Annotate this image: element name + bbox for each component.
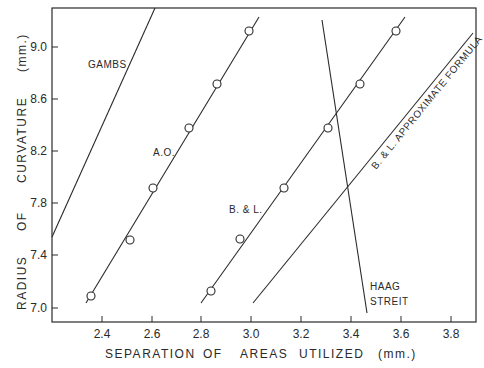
gambs-line xyxy=(52,8,155,237)
x-axis-title-word: UTILIZED xyxy=(299,347,364,361)
x-axis-title: SEPARATION OF AREAS UTILIZED (mm.) xyxy=(105,347,417,361)
data-point xyxy=(149,184,157,192)
x-tick-label: 2.6 xyxy=(144,327,161,341)
data-point xyxy=(356,80,364,88)
x-axis xyxy=(102,316,451,322)
y-axis-title-word: (mm.) xyxy=(15,33,29,72)
chart: 7.0 7.4 7.8 8.2 8.6 9.0 2.4 2.6 2.8 3.0 … xyxy=(0,0,484,368)
x-tick-label: 3.6 xyxy=(393,327,410,341)
data-point xyxy=(213,80,221,88)
data-point xyxy=(236,235,244,243)
plot-frame xyxy=(52,8,476,322)
gambs-label: GAMBS xyxy=(88,59,127,70)
x-axis-title-word: OF xyxy=(203,347,223,361)
haag-streit-line xyxy=(322,20,367,313)
streit-label: STREIT xyxy=(370,296,409,307)
x-axis-title-word: (mm.) xyxy=(378,347,417,361)
y-tick-label: 9.0 xyxy=(30,40,47,54)
bl-label: B. & L. xyxy=(229,204,263,215)
ao-label: A.O. xyxy=(153,147,175,158)
x-tick-label: 3.4 xyxy=(343,327,360,341)
y-axis-title-word: CURVATURE xyxy=(15,97,29,183)
y-tick-label: 8.2 xyxy=(30,144,47,158)
bl-approx-formula-line xyxy=(253,33,473,303)
data-point xyxy=(280,184,288,192)
y-axis-title-word: OF xyxy=(15,211,29,231)
data-point xyxy=(87,292,95,300)
x-tick-label: 2.4 xyxy=(94,327,111,341)
data-point xyxy=(392,27,400,35)
data-point xyxy=(126,236,134,244)
data-point xyxy=(207,287,215,295)
y-tick-label: 7.8 xyxy=(30,196,47,210)
y-axis-title-word: RADIUS xyxy=(15,256,29,310)
bl-approx-formula-label: B. & L. APPROXIMATE FORMULA xyxy=(369,33,484,171)
y-tick-label: 7.4 xyxy=(30,248,47,262)
y-tick-label: 7.0 xyxy=(30,301,47,315)
x-axis-title-word: AREAS xyxy=(240,347,288,361)
x-tick-label: 2.8 xyxy=(193,327,210,341)
y-axis xyxy=(52,47,58,308)
data-point xyxy=(245,27,253,35)
data-point xyxy=(185,124,193,132)
x-tick-label: 3.2 xyxy=(293,327,310,341)
x-tick-label: 3.0 xyxy=(243,327,260,341)
y-axis-title: RADIUS OF CURVATURE (mm.) xyxy=(15,33,29,310)
haag-label: HAAG xyxy=(370,281,400,292)
y-tick-label: 8.6 xyxy=(30,92,47,106)
x-tick-label: 3.8 xyxy=(443,327,460,341)
data-point xyxy=(324,124,332,132)
x-tick-labels: 2.4 2.6 2.8 3.0 3.2 3.4 3.6 3.8 xyxy=(94,327,460,341)
x-axis-title-word: SEPARATION xyxy=(105,347,196,361)
series-lines xyxy=(52,8,473,313)
y-tick-labels: 7.0 7.4 7.8 8.2 8.6 9.0 xyxy=(30,40,47,315)
